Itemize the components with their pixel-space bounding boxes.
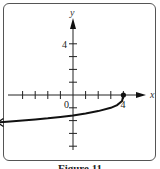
curve-endpoint [121,92,126,97]
y-tick-label: 4 [62,39,67,50]
plot-area: xy440 [0,0,160,169]
x-axis-arrow [136,92,146,98]
origin-label: 0 [64,99,69,110]
figure-caption: Figure 11 [0,163,160,169]
y-axis-label: y [69,7,75,18]
y-axis-arrow [70,18,76,29]
series-curve [0,95,123,123]
x-axis-label: x [149,89,155,100]
